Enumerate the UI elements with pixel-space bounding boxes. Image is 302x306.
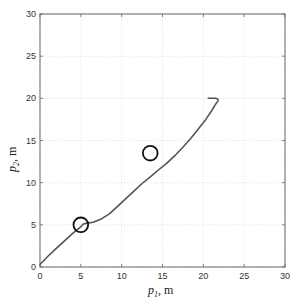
x-tick-label: 15 xyxy=(157,271,167,281)
y-tick-label: 10 xyxy=(26,178,36,188)
trajectory-line xyxy=(40,98,218,264)
x-tick-label: 20 xyxy=(198,271,208,281)
y-tick-label: 15 xyxy=(26,136,36,146)
y-tick-label: 0 xyxy=(31,262,36,272)
x-tick-label: 30 xyxy=(280,271,290,281)
y-tick-label: 25 xyxy=(26,51,36,61)
y-tick-label: 20 xyxy=(26,93,36,103)
grid-lines xyxy=(40,14,285,267)
x-tick-label: 10 xyxy=(117,271,127,281)
obstacle-2-circle-icon xyxy=(143,146,158,161)
x-axis-label: p1, m xyxy=(147,283,174,299)
x-tick-label: 25 xyxy=(239,271,249,281)
x-tick-label: 5 xyxy=(78,271,83,281)
chart: 051015202530 051015202530 p1, m p2, m xyxy=(0,0,302,306)
obstacle-markers xyxy=(73,146,157,232)
x-tick-label: 0 xyxy=(37,271,42,281)
y-axis-label: p2, m xyxy=(5,146,21,173)
y-tick-label: 5 xyxy=(31,220,36,230)
y-tick-label: 30 xyxy=(26,9,36,19)
x-axis-ticks: 051015202530 xyxy=(37,14,290,281)
